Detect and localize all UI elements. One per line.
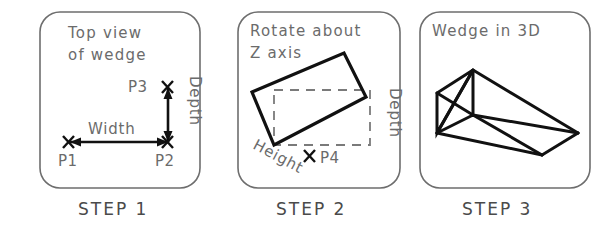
panel-3-title-line-1: Wedge in 3D <box>432 22 541 40</box>
panel-2-title-line-1: Rotate about <box>250 22 362 40</box>
panel-2-title-line-2: Z axis <box>250 44 302 62</box>
dimension-label-depth-2: Depth <box>386 88 404 138</box>
rotated-wedge-outline <box>252 53 366 145</box>
wedge-construction-figure: Top view of wedge <box>0 0 609 242</box>
panel-step-2: Rotate about Z axis P4 Height Depth STEP… <box>238 12 404 219</box>
width-arrow <box>70 138 168 147</box>
panel-step-1: Top view of wedge <box>40 12 204 219</box>
panel-1-title-line-2: of wedge <box>68 46 147 64</box>
step-label-3: STEP 3 <box>462 199 532 219</box>
point-label-p1: P1 <box>58 152 78 170</box>
panel-1-title-line-1: Top view <box>67 24 142 42</box>
dimension-label-width: Width <box>88 120 136 138</box>
step-label-2: STEP 2 <box>276 199 346 219</box>
point-label-p2: P2 <box>155 152 175 170</box>
panel-step-3: Wedge in 3D STEP 3 <box>420 12 590 219</box>
point-label-p4: P4 <box>320 149 340 167</box>
figure-canvas: Top view of wedge <box>0 0 609 242</box>
point-label-p3: P3 <box>128 78 148 96</box>
step-label-1: STEP 1 <box>78 199 148 219</box>
dimension-label-depth: Depth <box>186 76 204 126</box>
wedge-3d-wireframe <box>437 70 578 155</box>
depth-arrow <box>164 88 173 142</box>
